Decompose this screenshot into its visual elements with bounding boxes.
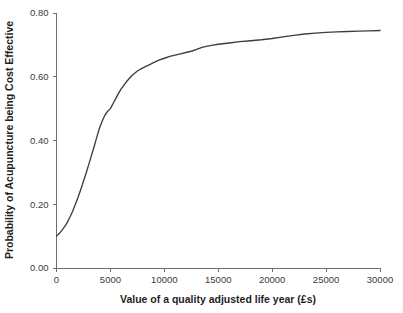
x-tick-label: 20000 bbox=[259, 274, 285, 285]
y-tick-label: 0.00 bbox=[30, 262, 49, 273]
y-axis-title: Probability of Acupuncture being Cost Ef… bbox=[3, 21, 15, 259]
cost-effectiveness-acceptability-curve-chart: 0.000.200.400.600.80 0500010000150002000… bbox=[0, 0, 403, 313]
x-tick-label: 10000 bbox=[151, 274, 177, 285]
chart-container: 0.000.200.400.600.80 0500010000150002000… bbox=[0, 0, 403, 313]
x-axis-title: Value of a quality adjusted life year (£… bbox=[120, 293, 316, 305]
x-tick-label: 5000 bbox=[100, 274, 121, 285]
y-tick-label: 0.60 bbox=[30, 71, 49, 82]
y-tick-label: 0.80 bbox=[30, 7, 49, 18]
y-tick-label: 0.20 bbox=[30, 199, 49, 210]
x-tick-label: 15000 bbox=[205, 274, 231, 285]
x-tick-label: 30000 bbox=[367, 274, 393, 285]
y-tick-label: 0.40 bbox=[30, 135, 49, 146]
x-tick-label: 25000 bbox=[313, 274, 339, 285]
x-tick-label: 0 bbox=[54, 274, 59, 285]
